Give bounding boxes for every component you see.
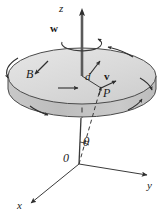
velocity-label: v bbox=[104, 71, 110, 82]
point-P-label: P bbox=[103, 87, 110, 99]
x-axis-label: x bbox=[17, 200, 22, 211]
theta-angle-label: θ bbox=[83, 137, 90, 148]
y-axis-line bbox=[79, 164, 147, 175]
x-axis-line bbox=[31, 164, 79, 203]
diagram-canvas bbox=[0, 0, 161, 219]
magnetic-field-label: B bbox=[26, 68, 33, 80]
z-axis-label: z bbox=[59, 3, 63, 14]
physics-diagram-figure: z w B d v P θ 0 y x bbox=[0, 0, 161, 219]
distance-label: d bbox=[85, 71, 91, 82]
angular-velocity-label: w bbox=[50, 23, 58, 34]
origin-label: 0 bbox=[63, 152, 69, 164]
y-axis-label: y bbox=[147, 180, 152, 191]
